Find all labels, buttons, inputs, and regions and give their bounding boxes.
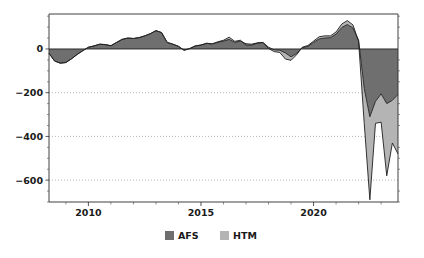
x-tick-label-2020: 2020 — [300, 207, 327, 218]
legend-label-afs: AFS — [178, 230, 199, 241]
legend-swatch-htm — [220, 231, 229, 240]
y-tick-label--400: −400 — [15, 131, 43, 142]
x-tick-label-2010: 2010 — [75, 207, 102, 218]
y-tick-label--600: −600 — [15, 175, 43, 186]
legend-swatch-afs — [165, 231, 174, 240]
chart-background — [0, 0, 424, 258]
legend-label-htm: HTM — [233, 230, 257, 241]
y-tick-label--200: −200 — [15, 87, 43, 98]
chart-canvas: 0−200−400−600 201020152020 AFSHTM — [0, 0, 424, 258]
stacked-area-chart: 0−200−400−600 201020152020 AFSHTM — [0, 0, 424, 258]
x-tick-label-2015: 2015 — [188, 207, 214, 218]
y-tick-label-0: 0 — [36, 43, 43, 54]
